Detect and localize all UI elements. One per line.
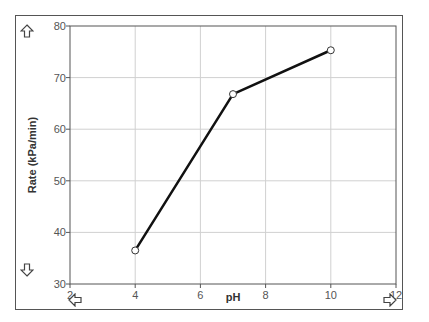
x-tick-label: 6 [197,289,203,301]
data-point-marker [327,47,334,54]
x-tick-label: 4 [132,289,138,301]
y-tick-label: 80 [54,20,66,32]
grid-lines [70,26,396,284]
line-chart: 304050607080 24681012 pH Rate (kPa/min) [0,0,429,322]
y-axis-ticks: 304050607080 [54,20,70,290]
y-tick-label: 60 [54,123,66,135]
data-line [135,50,331,250]
data-point-marker [132,247,139,254]
y-tick-label: 50 [54,175,66,187]
y-axis-label: Rate (kPa/min) [26,116,38,193]
plot-area [70,26,396,284]
plot-border [70,26,396,284]
x-tick-label: 10 [325,289,337,301]
y-tick-label: 70 [54,72,66,84]
up-arrow-icon[interactable] [20,24,34,38]
right-arrow-icon[interactable] [383,293,397,307]
y-tick-label: 30 [54,278,66,290]
down-arrow-icon[interactable] [20,263,34,277]
x-axis-label: pH [226,291,241,303]
y-tick-label: 40 [54,226,66,238]
left-arrow-icon[interactable] [68,293,82,307]
data-point-marker [230,91,237,98]
x-tick-label: 8 [263,289,269,301]
